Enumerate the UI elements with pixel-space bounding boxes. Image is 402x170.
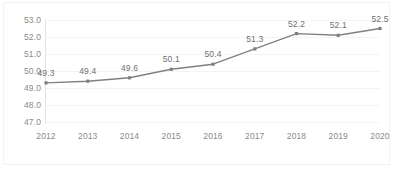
data-point-labels: 49.349.449.650.150.451.352.252.152.5 xyxy=(46,20,380,122)
data-point-label: 50.4 xyxy=(205,49,222,59)
data-point-label: 50.1 xyxy=(163,54,180,64)
gridline xyxy=(46,122,380,123)
data-point-label: 52.2 xyxy=(288,19,305,29)
data-point-label: 52.5 xyxy=(372,14,389,24)
y-axis-tick-label: 53.0 xyxy=(24,15,41,25)
x-axis-tick-label: 2020 xyxy=(370,131,389,141)
x-axis-tick-label: 2018 xyxy=(287,131,306,141)
x-axis-tick-label: 2019 xyxy=(329,131,348,141)
x-axis-tick-label: 2013 xyxy=(78,131,97,141)
y-axis-tick-label: 51.0 xyxy=(24,49,41,59)
x-axis-tick-label: 2014 xyxy=(120,131,139,141)
y-axis-tick-label: 52.0 xyxy=(24,32,41,42)
y-axis-tick-label: 48.0 xyxy=(24,100,41,110)
data-point-label: 52.1 xyxy=(330,20,347,30)
data-point-label: 49.4 xyxy=(79,66,96,76)
x-axis-tick-label: 2012 xyxy=(36,131,55,141)
x-axis-tick-label: 2016 xyxy=(203,131,222,141)
x-axis-tick-labels: 201220132014201520162017201820192020 xyxy=(46,131,380,145)
data-point-label: 49.3 xyxy=(38,68,55,78)
data-point-label: 49.6 xyxy=(121,63,138,73)
data-point-label: 51.3 xyxy=(246,34,263,44)
y-axis-tick-label: 47.0 xyxy=(24,117,41,127)
line-chart: 53.052.051.050.049.048.047.0 20122013201… xyxy=(0,0,402,170)
x-axis-tick-label: 2017 xyxy=(245,131,264,141)
y-axis-tick-label: 49.0 xyxy=(24,83,41,93)
x-axis-tick-label: 2015 xyxy=(162,131,181,141)
y-axis-tick-labels: 53.052.051.050.049.048.047.0 xyxy=(0,20,41,122)
